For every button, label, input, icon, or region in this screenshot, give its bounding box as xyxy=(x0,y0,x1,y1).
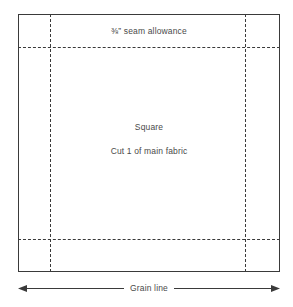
seam-line-right xyxy=(245,14,246,272)
pattern-diagram: ⅜” seam allowance Square Cut 1 of main f… xyxy=(0,0,293,307)
seam-line-left xyxy=(50,14,51,272)
pattern-piece-outline xyxy=(18,14,280,272)
seam-line-top xyxy=(18,47,280,48)
seam-allowance-label: ⅜” seam allowance xyxy=(18,26,280,36)
grainline-label: Grain line xyxy=(124,283,174,293)
grainline-label-wrapper: Grain line xyxy=(18,282,280,295)
grainline-indicator: Grain line xyxy=(18,282,280,295)
cut-instruction-label: Cut 1 of main fabric xyxy=(18,146,280,156)
piece-name-label: Square xyxy=(18,122,280,132)
seam-line-bottom xyxy=(18,239,280,240)
